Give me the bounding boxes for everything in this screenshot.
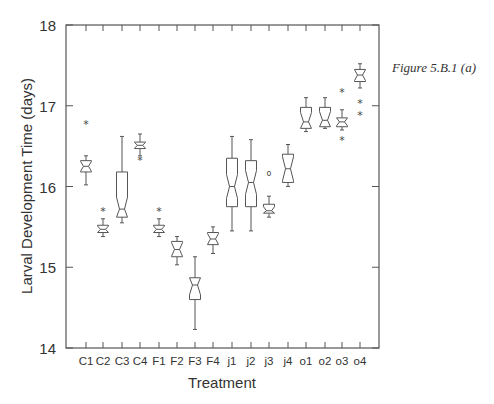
y-axis-label: Larval Development Time (days) — [18, 78, 35, 294]
x-tick-label: o3 — [336, 355, 349, 367]
outlier-circle: o — [267, 169, 272, 178]
x-tick-label: o1 — [300, 355, 313, 367]
notched-box — [227, 158, 238, 206]
x-tick-label: F1 — [152, 355, 165, 367]
notched-box — [301, 107, 312, 128]
outlier-star: * — [339, 134, 345, 147]
outlier-star: * — [83, 118, 89, 131]
y-tick-label: 16 — [39, 179, 56, 196]
x-tick-label: j2 — [246, 355, 256, 367]
box-F3 — [190, 257, 201, 330]
x-tick-label: C3 — [115, 355, 130, 367]
y-tick-label: 18 — [39, 17, 56, 34]
notched-box — [246, 161, 257, 207]
box-F4 — [208, 227, 219, 254]
y-tick-label: 14 — [39, 340, 56, 357]
x-tick-label: o2 — [319, 355, 332, 367]
notched-box — [190, 278, 201, 300]
y-tick-label: 17 — [39, 98, 56, 115]
box-j3: o — [264, 169, 275, 217]
x-axis-label: Treatment — [188, 374, 257, 391]
box-j2 — [246, 140, 257, 231]
box-C4: * — [135, 134, 146, 167]
outlier-star: * — [137, 154, 143, 167]
x-tick-label: j1 — [227, 355, 237, 367]
plot-frame — [66, 25, 379, 348]
box-o2 — [320, 98, 331, 129]
box-o1 — [301, 98, 312, 132]
figure-caption: Figure 5.B.1 (a) — [392, 60, 476, 76]
box-C3 — [117, 136, 128, 222]
notched-box — [320, 107, 331, 126]
plot-border — [66, 25, 379, 348]
box-o4: ** — [355, 64, 366, 123]
box-o3: ** — [337, 86, 348, 147]
outlier-star: * — [357, 97, 363, 110]
x-tick-label: C2 — [96, 355, 111, 367]
x-tick-label: o4 — [354, 355, 367, 367]
notched-box — [264, 204, 275, 213]
x-tick-label: j3 — [264, 355, 274, 367]
outlier-star: * — [357, 109, 363, 122]
outlier-star: * — [339, 86, 345, 99]
box-j1 — [227, 136, 238, 230]
y-tick-label: 15 — [39, 259, 56, 276]
x-tick-label: F4 — [206, 355, 220, 367]
box-F2 — [172, 237, 183, 265]
box-C1: * — [81, 118, 92, 185]
notched-box — [117, 172, 128, 217]
box-series: ****o**** — [81, 64, 366, 330]
box-F1: * — [154, 205, 165, 237]
x-tick-label: F3 — [188, 355, 201, 367]
outlier-star: * — [156, 205, 162, 218]
x-tick-label: F2 — [170, 355, 183, 367]
x-tick-label: j4 — [283, 355, 294, 367]
outlier-star: * — [100, 205, 106, 218]
y-axis-ticks: 1415161718 — [39, 17, 379, 357]
box-j4 — [283, 145, 294, 187]
box-C2: * — [98, 205, 109, 237]
x-tick-label: C4 — [133, 355, 148, 367]
x-tick-label: C1 — [79, 355, 94, 367]
